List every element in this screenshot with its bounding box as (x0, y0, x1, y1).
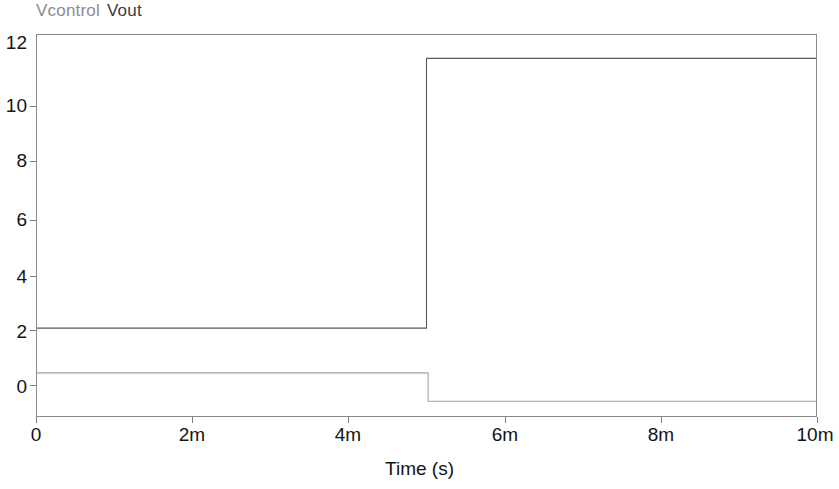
y-tick-label-8: 8 (0, 151, 27, 170)
x-tick-mark-6m (505, 417, 506, 423)
y-tick-label-4: 4 (0, 267, 27, 286)
x-tick-mark-10m (817, 417, 818, 423)
y-tick-label-0: 0 (0, 377, 27, 396)
y-tick-label-6: 6 (0, 210, 27, 229)
x-tick-label-10m: 10m (775, 424, 839, 446)
x-tick-mark-4m (348, 417, 349, 423)
y-tick-label-10: 10 (0, 96, 27, 115)
x-tick-mark-8m (661, 417, 662, 423)
x-tick-label-2m: 2m (152, 424, 232, 446)
chart-figure: Vcontrol Vout 0 2 4 6 8 10 12 0 2m 4m 6m… (0, 0, 839, 489)
legend-item-vcontrol: Vcontrol (36, 1, 100, 21)
x-tick-label-0: 0 (0, 424, 76, 446)
series-line-vout (37, 58, 816, 328)
x-tick-mark-0 (36, 417, 37, 423)
x-tick-label-8m: 8m (621, 424, 701, 446)
series-line-vcontrol (37, 373, 816, 401)
chart-legend: Vcontrol Vout (36, 1, 142, 21)
x-tick-mark-2m (192, 417, 193, 423)
x-tick-label-6m: 6m (465, 424, 545, 446)
x-tick-label-4m: 4m (308, 424, 388, 446)
plot-canvas (36, 34, 817, 417)
y-tick-label-12: 12 (0, 33, 27, 52)
x-axis-title: Time (s) (0, 458, 839, 480)
y-tick-label-2: 2 (0, 322, 27, 341)
legend-item-vout: Vout (107, 1, 142, 21)
plot-area (36, 34, 817, 417)
